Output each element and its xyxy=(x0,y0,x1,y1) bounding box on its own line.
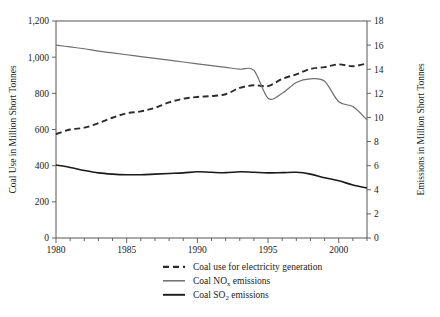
legend-label-2: Coal SO2 emissions xyxy=(193,290,269,301)
left-tick-label: 1,200 xyxy=(28,16,50,26)
left-tick-label: 600 xyxy=(35,125,50,135)
chart-figure: 02004006008001,0001,200 024681012141618 … xyxy=(0,0,440,317)
series-lines xyxy=(56,45,367,188)
left-tick-label: 400 xyxy=(35,161,50,171)
x-tick-label: 1995 xyxy=(259,245,278,255)
legend-label-0: Coal use for electricity generation xyxy=(193,262,323,272)
right-axis-title: Emissions in Million Short Tonnes xyxy=(416,63,426,195)
left-axis-title: Coal Use in Million Short Tonnes xyxy=(8,65,18,194)
series-line-1 xyxy=(56,45,367,120)
right-tick-label: 18 xyxy=(374,16,384,26)
series-line-0 xyxy=(56,64,367,135)
left-axis-ticks: 02004006008001,0001,200 xyxy=(28,16,56,243)
x-tick-label: 1980 xyxy=(47,245,66,255)
right-axis-ticks: 024681012141618 xyxy=(367,16,384,243)
right-tick-label: 2 xyxy=(374,209,379,219)
left-tick-label: 0 xyxy=(44,233,49,243)
line-chart: 02004006008001,0001,200 024681012141618 … xyxy=(0,0,440,317)
left-tick-label: 1,000 xyxy=(28,53,50,63)
x-tick-label: 1985 xyxy=(117,245,136,255)
right-tick-label: 16 xyxy=(374,41,384,51)
series-line-2 xyxy=(56,165,367,188)
right-tick-label: 12 xyxy=(374,89,384,99)
x-tick-label: 2000 xyxy=(329,245,348,255)
right-tick-label: 14 xyxy=(374,65,384,75)
x-axis-ticks: 19801985199019952000 xyxy=(47,238,368,255)
left-tick-label: 200 xyxy=(35,197,50,207)
legend-label-1: Coal NOx emissions xyxy=(193,276,271,287)
chart-legend: Coal use for electricity generationCoal … xyxy=(163,262,323,301)
right-tick-label: 8 xyxy=(374,137,379,147)
right-tick-label: 10 xyxy=(374,113,384,123)
right-tick-label: 6 xyxy=(374,161,379,171)
right-tick-label: 4 xyxy=(374,185,379,195)
plot-frame xyxy=(56,21,367,238)
left-tick-label: 800 xyxy=(35,89,50,99)
right-tick-label: 0 xyxy=(374,233,379,243)
x-tick-label: 1990 xyxy=(188,245,207,255)
